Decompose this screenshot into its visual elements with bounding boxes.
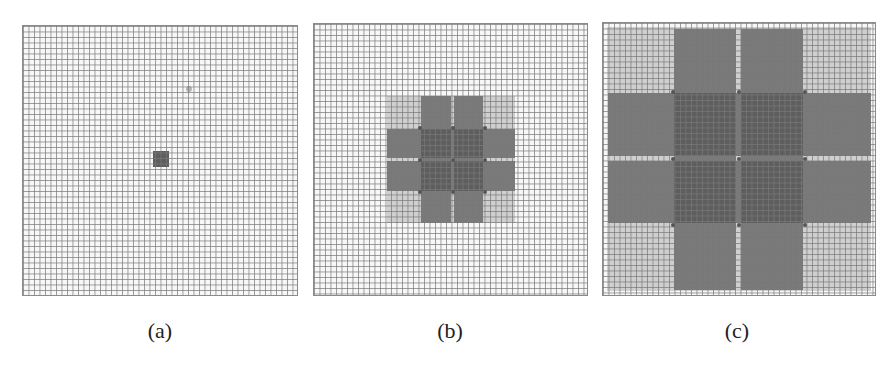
node [803,157,807,161]
node [483,190,487,194]
active-cell-cluster [153,151,169,167]
overlap-tr [741,93,803,156]
overlap-bl [674,161,736,223]
caption-b: (b) [420,318,480,344]
node [671,157,675,161]
overlap-br [741,161,803,223]
node [737,90,741,94]
node [451,158,455,162]
horizontal-arm-top [387,129,515,158]
overlap-tl [421,129,451,158]
node [671,90,675,94]
node [483,126,487,130]
node [418,126,422,130]
overlap-br [454,161,483,191]
overlap-bl [421,161,451,191]
node [451,190,455,194]
node [418,158,422,162]
caption-c: (c) [707,318,767,344]
caption-a: (a) [130,318,190,344]
node [451,126,455,130]
faint-speck [186,86,192,92]
horizontal-arm-bottom [387,161,515,191]
vertical-arm-left [674,29,736,290]
panel-b [313,23,588,296]
node [483,158,487,162]
node [737,223,741,227]
overlap-tl [674,93,736,156]
node [737,157,741,161]
panel-a [22,25,298,296]
panel-c [602,22,876,296]
node [671,223,675,227]
horizontal-arm-top [608,93,871,156]
node [418,190,422,194]
overlap-tr [454,129,483,158]
vertical-arm-right [741,29,803,290]
node [803,223,807,227]
vertical-arm-right [454,96,483,223]
node [803,90,807,94]
vertical-arm-left [421,96,451,223]
horizontal-arm-bottom [608,161,871,223]
